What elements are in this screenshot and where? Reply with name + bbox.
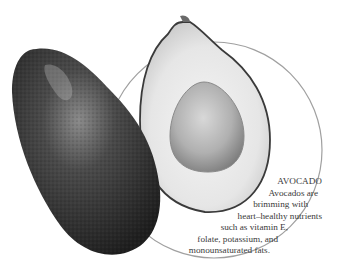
caption-title: AVOCADO	[189, 176, 322, 188]
caption-line: brimming with	[189, 199, 308, 211]
caption-line: Avocados are	[189, 188, 318, 200]
caption-line: heart–healthy nutrients	[189, 211, 322, 223]
avocado-illustration: AVOCADO Avocados are brimming with heart…	[0, 0, 344, 268]
caption-line: such as vitamin E,	[189, 222, 288, 234]
caption-line: folate, potassium, and	[189, 234, 278, 246]
nutrition-caption: AVOCADO Avocados are brimming with heart…	[189, 176, 322, 257]
caption-line: monounsaturated fats.	[189, 245, 270, 257]
whole-avocado	[12, 48, 160, 254]
